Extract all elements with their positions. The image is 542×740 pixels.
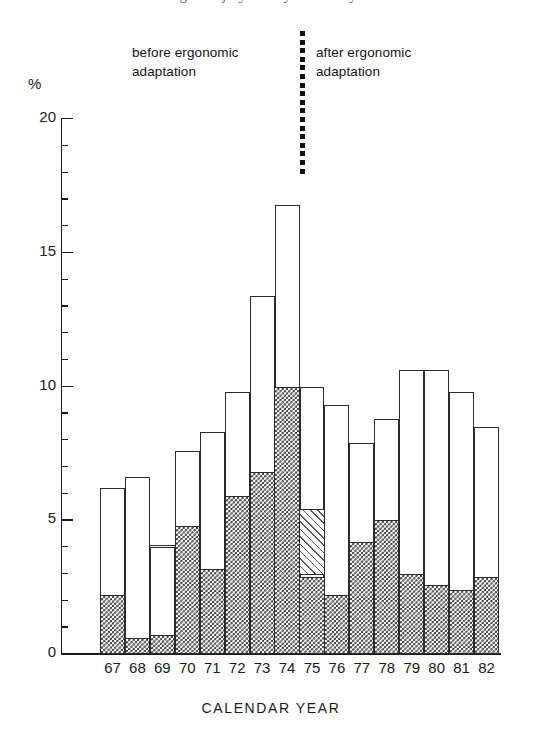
divider-dot: [300, 48, 305, 53]
y-axis-tick-label: 20: [20, 108, 56, 125]
bar-69: [150, 547, 175, 654]
y-axis-major-tick: [61, 118, 73, 119]
divider-dot: [300, 65, 305, 70]
x-axis-tick-label-82: 82: [472, 659, 502, 676]
bar-80: [424, 370, 449, 654]
y-axis-unit-label: %: [28, 75, 41, 92]
bar-73-cross-hatch-segment: [250, 472, 275, 654]
divider-dot: [300, 74, 305, 79]
bar-80-cross-hatch-segment: [424, 585, 449, 655]
y-axis-tick-label: 0: [20, 643, 56, 660]
y-axis-minor-tick: [61, 439, 68, 440]
bar-76: [324, 405, 349, 654]
y-axis-minor-tick: [61, 573, 68, 574]
bar-74-cross-hatch-segment: [274, 387, 299, 655]
y-axis-minor-tick: [61, 600, 68, 601]
y-axis-minor-tick: [61, 172, 68, 173]
y-axis-minor-tick: [61, 626, 68, 627]
bar-68-cross-hatch-segment: [125, 638, 150, 654]
bar-78: [374, 419, 399, 654]
bar-77-cross-hatch-segment: [349, 542, 374, 654]
y-axis-major-tick: [61, 519, 73, 520]
bar-75-cross-hatch-segment: [299, 577, 324, 655]
y-axis-minor-tick: [61, 225, 68, 226]
bar-74: [275, 205, 300, 654]
y-axis-minor-tick: [61, 332, 68, 333]
injury-rate-bar-chart-figure: Fig. 3. Injury rate by calendar year bef…: [0, 0, 542, 740]
bar-67-cross-hatch-segment: [100, 595, 125, 654]
y-axis-minor-tick: [61, 412, 68, 413]
bars-plot-area: [100, 118, 499, 654]
clipped-figure-title: Fig. 3. Injury rate by calendar year: [0, 0, 542, 11]
y-axis-minor-tick: [61, 493, 68, 494]
y-axis-minor-tick: [61, 305, 68, 306]
bar-75-diagonal-hatch-segment: [299, 509, 324, 576]
divider-dot: [300, 91, 305, 96]
x-axis-title: CALENDAR YEAR: [0, 700, 542, 716]
bar-70-cross-hatch-segment: [175, 526, 200, 654]
bar-70: [175, 451, 200, 654]
y-axis-major-tick: [61, 252, 73, 253]
y-axis-minor-tick: [61, 546, 68, 547]
bar-81: [449, 392, 474, 654]
divider-dot: [300, 108, 305, 113]
divider-dot: [300, 57, 305, 62]
bar-77: [349, 443, 374, 654]
bar-72: [225, 392, 250, 654]
bar-76-cross-hatch-segment: [324, 595, 349, 654]
y-axis-minor-tick: [61, 279, 68, 280]
divider-dot: [300, 31, 305, 36]
bar-69-cross-hatch-segment: [150, 635, 175, 654]
bar-79-cross-hatch-segment: [399, 574, 424, 654]
bar-79: [399, 370, 424, 654]
bar-67: [100, 488, 125, 654]
y-axis-tick-label: 5: [20, 509, 56, 526]
bar-73: [250, 296, 275, 654]
y-axis-minor-tick: [61, 145, 68, 146]
bar-69-internal-rule: [150, 545, 175, 546]
divider-dot: [300, 83, 305, 88]
bar-71-cross-hatch-segment: [200, 569, 225, 655]
annotation-before-adaptation: before ergonomic adaptation: [132, 43, 239, 81]
bar-68: [125, 477, 150, 654]
bar-78-cross-hatch-segment: [374, 520, 399, 654]
divider-dot: [300, 100, 305, 105]
y-axis-minor-tick: [61, 359, 68, 360]
y-axis-minor-tick: [61, 198, 68, 199]
clipped-figure-title-text: Fig. 3. Injury rate by calendar year: [0, 0, 542, 4]
bar-72-cross-hatch-segment: [225, 496, 250, 654]
bar-82: [474, 427, 499, 654]
y-axis-minor-tick: [61, 466, 68, 467]
annotation-after-adaptation: after ergonomic adaptation: [316, 43, 411, 81]
bar-75: [300, 387, 325, 655]
y-axis-tick-label: 15: [20, 242, 56, 259]
y-axis-major-tick: [61, 386, 73, 387]
y-axis-tick-label: 10: [20, 376, 56, 393]
bar-71: [200, 432, 225, 654]
bar-81-cross-hatch-segment: [449, 590, 474, 654]
bar-82-cross-hatch-segment: [474, 577, 499, 655]
divider-dot: [300, 40, 305, 45]
